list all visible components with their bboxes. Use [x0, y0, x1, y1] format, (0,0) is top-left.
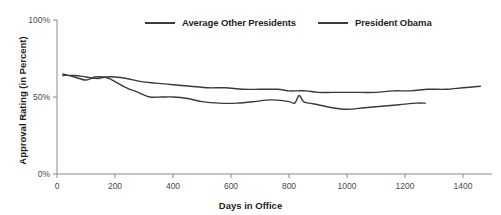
chart-legend: Average Other Presidents President Obama — [145, 17, 432, 28]
x-axis-tick-label: 800 — [282, 181, 296, 191]
legend-entry-president-obama: President Obama — [318, 17, 432, 28]
chart-tick-marks — [53, 20, 463, 178]
chart-axes — [57, 20, 492, 174]
x-axis-tick-label: 1400 — [454, 181, 473, 191]
approval-rating-line-chart: Average Other Presidents President Obama… — [0, 0, 501, 215]
x-axis-tick-label: 200 — [108, 181, 122, 191]
legend-line-swatch — [318, 22, 348, 24]
x-axis-tick-label: 400 — [166, 181, 180, 191]
legend-line-swatch — [145, 22, 175, 24]
y-axis-tick-label: 100% — [16, 15, 50, 25]
y-axis-title-container: Approval Rating (in Percent) — [2, 14, 16, 176]
plot-area — [0, 0, 501, 215]
legend-label-average-other-presidents: Average Other Presidents — [182, 17, 296, 28]
legend-label-president-obama: President Obama — [355, 17, 432, 28]
y-axis-tick-label: 0% — [16, 169, 50, 179]
x-axis-tick-label: 600 — [224, 181, 238, 191]
x-axis-tick-label: 1000 — [338, 181, 357, 191]
y-axis-tick-label: 50% — [16, 92, 50, 102]
series-line — [63, 75, 481, 92]
x-axis-title: Days in Office — [0, 200, 501, 211]
chart-series-lines — [63, 74, 481, 109]
legend-entry-average-other-presidents: Average Other Presidents — [145, 17, 296, 28]
x-axis-tick-label: 0 — [55, 181, 60, 191]
x-axis-tick-label: 1200 — [396, 181, 415, 191]
series-line — [63, 74, 426, 109]
